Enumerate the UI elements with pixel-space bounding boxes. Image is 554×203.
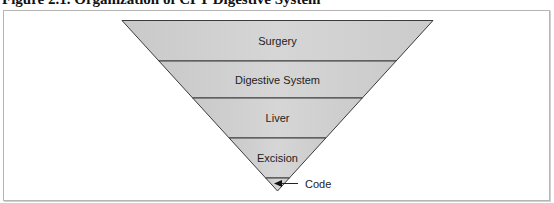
callout-label: Code xyxy=(305,178,331,190)
pyramid-level-label: Surgery xyxy=(258,35,297,47)
pyramid-level-label: Excision xyxy=(257,152,298,164)
pyramid-level-label: Digestive System xyxy=(235,74,320,86)
pyramid-level-label: Liver xyxy=(266,112,290,124)
pyramid-diagram: SurgeryDigestive SystemLiverExcision Cod… xyxy=(0,0,554,203)
